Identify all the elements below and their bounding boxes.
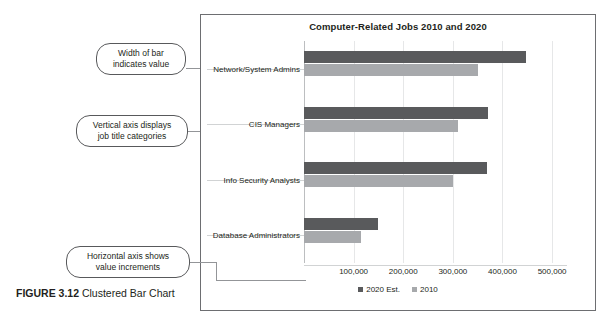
callout-vertical-axis: Vertical axis displays job title categor… [76,115,188,147]
leader-line-vertical-axis [188,131,200,132]
callout-width-of-bar: Width of bar indicates value [96,43,186,75]
bar-group: Info Security Analysts [304,152,567,208]
callout-horizontal-axis-line2: value increments [74,262,182,273]
leader-line-horizontal-axis-h1 [190,262,216,263]
chart-title: Computer-Related Jobs 2010 and 2020 [201,21,595,32]
legend-item[interactable]: 2010 [412,285,438,294]
legend-swatch-icon [412,287,417,292]
x-tick-label: 500,000 [538,267,567,276]
bar-2020Est [304,51,526,63]
figure-caption-text: Clustered Bar Chart [79,287,175,299]
legend-label: 2010 [420,285,438,294]
category-label: Info Security Analysts [224,175,300,184]
x-tick-label: 100,000 [339,267,368,276]
category-label: CIS Managers [249,120,300,129]
legend-swatch-icon [358,287,363,292]
category-label: Database Administrators [213,231,300,240]
legend-item[interactable]: 2020 Est. [358,285,400,294]
callout-vertical-axis-line1: Vertical axis displays [84,120,180,131]
bar-2010 [304,120,458,132]
bar-2010 [304,64,478,76]
chart-legend: 2020 Est.2010 [201,285,595,294]
bar-group: CIS Managers [304,97,567,153]
category-axis-line [304,265,567,266]
callout-horizontal-axis: Horizontal axis shows value increments [66,246,190,278]
chart-panel: Computer-Related Jobs 2010 and 2020 Netw… [200,14,596,311]
bar-group: Network/System Admins [304,41,567,97]
figure-caption: FIGURE 3.12 Clustered Bar Chart [16,286,192,300]
bar-group: Database Administrators [304,208,567,264]
x-tick-label: 300,000 [438,267,467,276]
plot-area: Network/System AdminsCIS ManagersInfo Se… [304,41,567,263]
x-tick-label: 200,000 [389,267,418,276]
leader-line-width-of-bar [186,68,200,69]
legend-label: 2020 Est. [366,285,400,294]
callout-width-of-bar-line1: Width of bar [104,48,178,59]
x-tick-label: 400,000 [488,267,517,276]
leader-line-horizontal-axis-v [216,262,217,280]
figure-caption-label: FIGURE 3.12 [16,287,79,299]
callout-horizontal-axis-line1: Horizontal axis shows [74,251,182,262]
bar-2020Est [304,218,378,230]
callout-width-of-bar-line2: indicates value [104,59,178,70]
leader-line-horizontal-axis-h2 [216,280,306,281]
value-axis-tick-labels: 100,000200,000300,000400,000500,000 [304,267,567,281]
bar-2010 [304,175,453,187]
category-label: Network/System Admins [213,64,300,73]
callout-vertical-axis-line2: job title categories [84,131,180,142]
bar-2010 [304,231,361,243]
bar-2020Est [304,107,488,119]
bar-2020Est [304,162,487,174]
